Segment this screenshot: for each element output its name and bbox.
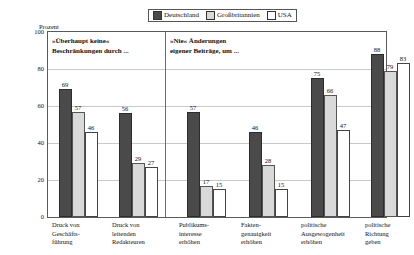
bar-value-label: 27 — [148, 159, 155, 167]
category-label-3: Fakten- genauigkeit erhöhen — [241, 221, 299, 247]
bar-grossbritannien-3[interactable]: 28 — [262, 165, 275, 217]
category-label-0-line1: Druck von — [52, 221, 108, 230]
bar-usa-0[interactable]: 46 — [85, 132, 98, 217]
bar-usa-5[interactable]: 83 — [397, 63, 410, 217]
category-label-1: Druck von leitenden Redakteuren — [112, 221, 170, 247]
bar-value-label: 47 — [340, 122, 347, 130]
category-label-3-line3: erhöhen — [241, 238, 299, 247]
y-tick-100: 100 — [22, 28, 44, 35]
legend-label-grossbritannien: Großbritannien — [217, 11, 260, 20]
category-label-2-line3: erhöhen — [179, 238, 237, 247]
category-label-5-line3: geben — [365, 238, 414, 247]
legend-item-deutschland: Deutschland — [153, 11, 199, 20]
category-label-3-line2: genauigkeit — [241, 230, 299, 239]
bar-deutschland-1[interactable]: 56 — [119, 113, 132, 217]
category-label-4-line1: politische — [301, 221, 363, 230]
bar-group-5: 88 79 83 — [360, 32, 414, 217]
category-label-2: Publikums- interesse erhöhen — [179, 221, 237, 247]
bar-value-label: 56 — [122, 105, 129, 113]
bar-deutschland-3[interactable]: 46 — [249, 132, 262, 217]
category-label-0: Druck von Geschäfts- führung — [52, 221, 108, 247]
bar-value-label: 46 — [252, 124, 259, 132]
bar-value-label: 83 — [400, 55, 407, 63]
y-tick-60: 60 — [22, 102, 44, 109]
category-label-1-line3: Redakteuren — [112, 238, 170, 247]
category-label-1-line2: leitenden — [112, 230, 170, 239]
bar-group-3: 46 28 15 — [238, 32, 298, 217]
category-label-0-line2: Geschäfts- — [52, 230, 108, 239]
legend-swatch-filled-icon — [153, 11, 162, 20]
bar-value-label: 28 — [265, 157, 272, 165]
bar-value-label: 79 — [387, 63, 394, 71]
category-label-4-line2: Ausgewogenheit — [301, 230, 363, 239]
bar-value-label: 15 — [278, 181, 285, 189]
legend-swatch-light-icon — [206, 11, 215, 20]
category-label-3-line1: Fakten- — [241, 221, 299, 230]
category-label-1-line1: Druck von — [112, 221, 170, 230]
category-label-2-line2: interesse — [179, 230, 237, 239]
bar-usa-2[interactable]: 15 — [213, 189, 226, 217]
bar-usa-4[interactable]: 47 — [337, 130, 350, 217]
bar-grossbritannien-1[interactable]: 29 — [132, 163, 145, 217]
y-tick-0: 0 — [22, 213, 44, 220]
bar-value-label: 88 — [374, 46, 381, 54]
bar-value-label: 46 — [88, 124, 95, 132]
y-tick-80: 80 — [22, 65, 44, 72]
bar-group-0: 69 57 46 — [48, 32, 108, 217]
bar-value-label: 15 — [216, 181, 223, 189]
bar-grossbritannien-2[interactable]: 17 — [200, 186, 213, 217]
bar-deutschland-2[interactable]: 57 — [187, 112, 200, 217]
bar-usa-1[interactable]: 27 — [145, 167, 158, 217]
bar-value-label: 75 — [314, 70, 321, 78]
category-label-5: politische Richtung geben — [365, 221, 414, 247]
chart-legend: Deutschland Großbritannien USA — [148, 9, 297, 22]
bar-group-1: 56 29 27 — [108, 32, 168, 217]
bar-grossbritannien-5[interactable]: 79 — [384, 71, 397, 217]
bar-grossbritannien-4[interactable]: 66 — [324, 95, 337, 217]
bar-value-label: 29 — [135, 155, 142, 163]
bar-value-label: 57 — [190, 104, 197, 112]
bar-group-2: 57 17 15 — [176, 32, 236, 217]
bar-deutschland-5[interactable]: 88 — [371, 54, 384, 217]
bar-grossbritannien-0[interactable]: 57 — [72, 112, 85, 217]
category-label-0-line3: führung — [52, 238, 108, 247]
category-label-2-line1: Publikums- — [179, 221, 237, 230]
bar-deutschland-0[interactable]: 69 — [59, 89, 72, 217]
bar-value-label: 57 — [75, 104, 82, 112]
bar-value-label: 69 — [62, 81, 69, 89]
y-tick-40: 40 — [22, 139, 44, 146]
legend-label-deutschland: Deutschland — [164, 11, 199, 20]
category-label-4-line3: erhöhen — [301, 238, 363, 247]
legend-item-usa: USA — [267, 11, 292, 20]
bar-value-label: 66 — [327, 87, 334, 95]
category-label-5-line1: politische — [365, 221, 414, 230]
legend-item-grossbritannien: Großbritannien — [206, 11, 260, 20]
bar-groups: 69 57 46 56 29 27 — [48, 32, 386, 217]
legend-swatch-empty-icon — [267, 11, 276, 20]
bar-value-label: 17 — [203, 178, 210, 186]
legend-label-usa: USA — [278, 11, 292, 20]
bar-usa-3[interactable]: 15 — [275, 189, 288, 217]
y-tick-20: 20 — [22, 176, 44, 183]
bar-group-4: 75 66 47 — [300, 32, 360, 217]
category-label-5-line2: Richtung — [365, 230, 414, 239]
bar-deutschland-4[interactable]: 75 — [311, 78, 324, 217]
x-axis-categories: Druck von Geschäfts- führung Druck von l… — [48, 221, 386, 255]
category-label-4: politische Ausgewogenheit erhöhen — [301, 221, 363, 247]
